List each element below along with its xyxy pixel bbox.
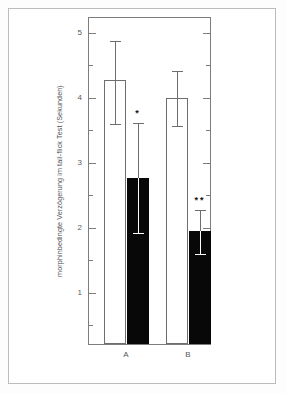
y-tick-5 (89, 33, 96, 34)
y-tick-label-1: 1 (78, 289, 82, 297)
errorbar-stem (138, 178, 139, 234)
y-axis-title: morphinbedingte Verzögerung im tail-flic… (52, 17, 66, 345)
y-minor-tick-4_5-right (206, 65, 210, 66)
y-minor-tick-1_5 (89, 260, 93, 261)
y-minor-tick-4_5 (89, 65, 93, 66)
y-minor-tick-3_5-right (206, 130, 210, 131)
y-minor-tick-0_5 (89, 325, 93, 326)
errorbar-b-filled-lower (189, 231, 211, 255)
y-tick-label-2: 2 (78, 224, 82, 232)
significance-mark-a: * (135, 109, 141, 118)
errorbar-cap-upper (195, 210, 206, 211)
bar-b-open[interactable] (166, 98, 188, 344)
errorbar-b-open (166, 71, 188, 127)
y-tick-1 (89, 293, 96, 294)
y-minor-tick-3_5 (89, 130, 93, 131)
significance-mark-b: ** (194, 196, 205, 205)
y-tick-3 (89, 163, 96, 164)
errorbar-a-open (104, 41, 126, 125)
x-axis-label-a: A (123, 351, 128, 359)
errorbar-cap-lower (110, 124, 121, 125)
plot-top-border (88, 17, 211, 18)
errorbar-cap-lower (133, 233, 144, 234)
errorbar-cap-upper (133, 123, 144, 124)
errorbar-cap-lower (172, 126, 183, 127)
errorbar-cap-upper (110, 41, 121, 42)
errorbar-a-filled-upper (127, 123, 149, 179)
errorbar-stem (177, 71, 178, 127)
errorbar-stem (115, 41, 116, 125)
y-axis-line-left (88, 17, 89, 345)
errorbar-b-filled-upper (189, 210, 211, 232)
errorbar-a-filled-lower (127, 178, 149, 234)
figure-page: morphinbedingte Verzögerung im tail-flic… (0, 0, 286, 394)
errorbar-stem (200, 210, 201, 232)
y-tick-2 (89, 228, 96, 229)
y-tick-3-right (203, 163, 210, 164)
errorbar-stem (200, 231, 201, 255)
y-tick-label-5: 5 (78, 29, 82, 37)
y-tick-label-4: 4 (78, 94, 82, 102)
y-minor-tick-2_5-right (206, 195, 210, 196)
y-tick-4-right (203, 98, 210, 99)
y-minor-tick-2_5 (89, 195, 93, 196)
errorbar-cap-upper (172, 71, 183, 72)
plot-area: 5 4 3 2 1 (88, 17, 211, 345)
errorbar-stem (138, 123, 139, 179)
x-axis-line (88, 344, 211, 345)
y-tick-label-3: 3 (78, 159, 82, 167)
y-tick-5-right (203, 33, 210, 34)
errorbar-cap-lower (195, 254, 206, 255)
y-tick-4 (89, 98, 96, 99)
x-axis-label-b: B (185, 351, 190, 359)
